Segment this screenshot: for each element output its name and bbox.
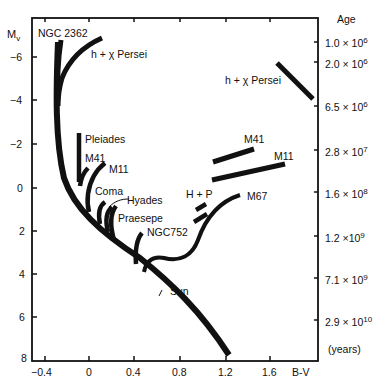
- age-mantissa: 1.2 ×10: [325, 232, 360, 244]
- label-praesepe: Praesepe: [118, 212, 163, 224]
- age-exponent: 7: [363, 145, 367, 154]
- x-axis-label: B-V: [292, 366, 310, 378]
- age-exponent: 6: [363, 100, 367, 109]
- x-tick-label: 1.6: [262, 366, 277, 378]
- y-tick-label: −6: [10, 51, 22, 63]
- age-tick-label: 1.0 × 106: [325, 35, 368, 49]
- age-tick-label: 2.0 × 106: [325, 56, 368, 70]
- label-h-chi-persei-giants: h + χ Persei: [225, 74, 281, 86]
- age-exponent: 10: [363, 315, 372, 324]
- age-exponent: 6: [363, 36, 367, 45]
- age-mantissa: 6.5 × 10: [325, 101, 363, 113]
- y-tick-label: 8: [21, 352, 27, 364]
- age-exponent: 9: [360, 231, 364, 240]
- hyades-leader-line: [105, 196, 130, 210]
- y-tick-label: 0: [17, 182, 23, 194]
- h-chi-persei-giants: [277, 63, 313, 99]
- age-tick-label: 2.9 × 1010: [325, 314, 372, 328]
- m11-giants: [212, 164, 285, 180]
- label-m41-giants: M41: [244, 133, 264, 145]
- y-tick-label: 4: [19, 268, 25, 280]
- y-tick-label: −4: [10, 94, 22, 106]
- x-tick-label: −0.4: [31, 366, 52, 378]
- label-hyades: Hyades: [127, 194, 163, 206]
- age-exponent: 9: [363, 273, 367, 282]
- hp-giants-upper: [196, 204, 206, 210]
- age-tick-label: 7.1 × 109: [325, 272, 368, 286]
- age-tick-label: 1.2 ×109: [325, 230, 365, 244]
- sun-marker: [159, 290, 162, 296]
- y-tick-label: 6: [19, 311, 25, 323]
- age-exponent: 6: [363, 57, 367, 66]
- age-axis-title: Age: [337, 13, 356, 25]
- label-pleiades: Pleiades: [85, 133, 125, 145]
- x-tick-label: 0.4: [126, 366, 141, 378]
- x-tick-label: 0.8: [172, 366, 187, 378]
- label-sun: Sun: [170, 285, 189, 297]
- label-hp: H + P: [186, 188, 213, 200]
- mv-label: M: [7, 28, 16, 40]
- plot-frame: [32, 18, 318, 361]
- age-mantissa: 1.6 × 10: [325, 188, 363, 200]
- mv-sub: v: [16, 34, 20, 43]
- age-tick-label: 1.6 × 108: [325, 186, 368, 200]
- age-tick-label: 2.8 × 107: [325, 144, 368, 158]
- age-axis-units: (years): [328, 343, 361, 355]
- label-m11: M11: [109, 163, 129, 175]
- age-mantissa: 2.8 × 10: [325, 146, 363, 158]
- label-h-chi-persei: h + χ Persei: [91, 48, 147, 60]
- label-ngc2362: NGC 2362: [38, 27, 88, 39]
- label-m67: M67: [247, 190, 267, 202]
- m41-giants: [213, 149, 254, 162]
- age-mantissa: 2.9 × 10: [325, 316, 363, 328]
- age-mantissa: 1.0 × 10: [325, 37, 363, 49]
- y-tick-label: −2: [10, 138, 22, 150]
- y-axis-label: Mv: [7, 28, 20, 43]
- label-m11-giants: M11: [274, 150, 294, 162]
- x-tick-label: 0: [86, 366, 92, 378]
- y-tick-label: 2: [19, 225, 25, 237]
- age-tick-label: 6.5 × 106: [325, 99, 368, 113]
- label-m41: M41: [85, 152, 105, 164]
- age-mantissa: 7.1 × 10: [325, 274, 363, 286]
- age-exponent: 8: [363, 187, 367, 196]
- x-tick-label: 1.2: [218, 366, 233, 378]
- praesepe-track: [111, 206, 116, 240]
- label-ngc752: NGC752: [147, 226, 188, 238]
- age-mantissa: 2.0 × 10: [325, 58, 363, 70]
